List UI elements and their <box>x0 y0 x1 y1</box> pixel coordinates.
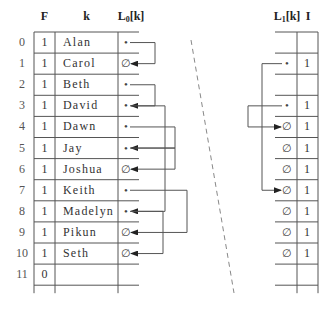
cell-i: 1 <box>298 225 316 239</box>
cell-i: 1 <box>298 246 316 260</box>
cell-l0-pointer: ∅ <box>119 225 133 239</box>
cell-k: David <box>63 98 117 112</box>
cell-l1-pointer: ∅ <box>280 183 294 197</box>
cell-k: Pikun <box>63 225 117 239</box>
row-index: 3 <box>14 98 30 112</box>
row-index: 1 <box>14 56 30 70</box>
cell-l0-pointer: • <box>119 141 133 155</box>
cell-f: 1 <box>34 77 55 91</box>
cell-f: 1 <box>34 204 55 218</box>
cell-l0-pointer: • <box>119 77 133 91</box>
cell-l1-pointer: • <box>280 56 294 70</box>
cell-l0-pointer: • <box>119 183 133 197</box>
cell-i: 1 <box>298 183 316 197</box>
cell-k: Jay <box>63 141 117 155</box>
cell-f: 1 <box>34 119 55 133</box>
cell-l0-pointer: • <box>119 204 133 218</box>
cell-f: 1 <box>34 246 55 260</box>
header-f: F <box>34 9 55 23</box>
cell-l0-pointer: ∅ <box>119 56 133 70</box>
cell-k: Beth <box>63 77 117 91</box>
header-k: k <box>55 9 118 23</box>
cell-l1-pointer: • <box>280 98 294 112</box>
cell-i: 1 <box>298 56 316 70</box>
cell-i: 1 <box>298 141 316 155</box>
row-index: 9 <box>14 225 30 239</box>
cell-k: Alan <box>63 35 117 49</box>
row-index: 10 <box>14 246 30 260</box>
cell-i: 1 <box>298 98 316 112</box>
header-i: I <box>302 9 314 23</box>
cell-k: Joshua <box>63 162 117 176</box>
cell-i: 1 <box>298 162 316 176</box>
cell-f: 1 <box>34 183 55 197</box>
cell-f: 1 <box>34 141 55 155</box>
row-index: 7 <box>14 183 30 197</box>
cell-l0-pointer: • <box>119 98 133 112</box>
cell-l0-pointer: ∅ <box>119 246 133 260</box>
skip-list-diagram: F k L0[k] L1[k] I 01Alan•11Carol∅21Beth•… <box>0 0 328 312</box>
cell-f: 0 <box>34 267 55 281</box>
header-l1-main: L <box>274 9 282 23</box>
row-index: 4 <box>14 119 30 133</box>
header-l0: L0[k] <box>116 9 146 27</box>
row-index: 2 <box>14 77 30 91</box>
cell-k: Dawn <box>63 119 117 133</box>
cell-l0-pointer: • <box>119 119 133 133</box>
cell-f: 1 <box>34 225 55 239</box>
cell-l1-pointer: ∅ <box>280 204 294 218</box>
cell-k: Madelyn <box>63 204 117 218</box>
header-l0-tail: [k] <box>130 9 145 23</box>
row-index: 5 <box>14 141 30 155</box>
cell-k: Seth <box>63 246 117 260</box>
row-index: 8 <box>14 204 30 218</box>
cell-i: 1 <box>298 204 316 218</box>
row-index: 11 <box>14 267 30 281</box>
header-l0-main: L <box>118 9 126 23</box>
cell-f: 1 <box>34 56 55 70</box>
cell-l1-pointer: ∅ <box>280 141 294 155</box>
cell-f: 1 <box>34 98 55 112</box>
cell-l1-pointer: ∅ <box>280 246 294 260</box>
cell-l1-pointer: ∅ <box>280 225 294 239</box>
cell-k: Keith <box>63 183 117 197</box>
cell-l1-pointer: ∅ <box>280 162 294 176</box>
cell-f: 1 <box>34 35 55 49</box>
row-index: 0 <box>14 35 30 49</box>
cell-l0-pointer: ∅ <box>119 162 133 176</box>
row-index: 6 <box>14 162 30 176</box>
cell-l0-pointer: • <box>119 35 133 49</box>
cell-f: 1 <box>34 162 55 176</box>
cell-k: Carol <box>63 56 117 70</box>
cell-l1-pointer: ∅ <box>280 119 294 133</box>
cell-i: 1 <box>298 119 316 133</box>
header-l1-tail: [k] <box>286 9 301 23</box>
header-l1: L1[k] <box>272 9 302 27</box>
